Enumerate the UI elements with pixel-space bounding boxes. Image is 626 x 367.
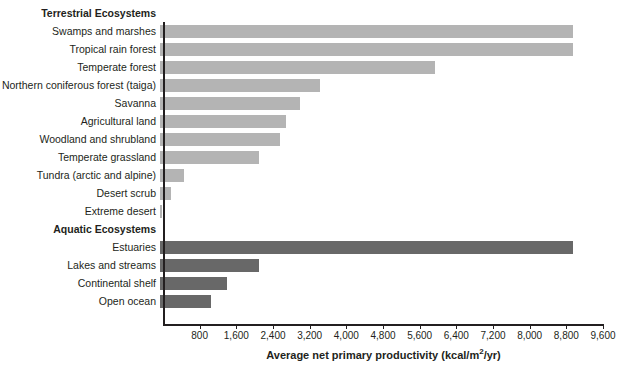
bar-track (160, 112, 626, 130)
x-axis-tick-label: 800 (191, 330, 208, 341)
bar-track (160, 94, 626, 112)
category-label: Agricultural land (0, 115, 160, 127)
x-axis-tick (346, 324, 347, 329)
chart-row: Open ocean (0, 292, 626, 310)
group-header-spacer (160, 220, 626, 238)
chart-row: Continental shelf (0, 274, 626, 292)
x-axis-tick-label: 8,800 (554, 330, 579, 341)
category-label: Open ocean (0, 295, 160, 307)
bar-track (160, 130, 626, 148)
x-axis-title-before: Average net primary productivity (kcal/m (266, 349, 479, 361)
y-axis-line (163, 22, 165, 325)
bar (160, 187, 171, 200)
category-label: Tropical rain forest (0, 43, 160, 55)
bar-track (160, 184, 626, 202)
bar-track (160, 22, 626, 40)
x-axis-tick-label: 4,000 (334, 330, 359, 341)
category-label: Temperate forest (0, 61, 160, 73)
chart-row: Tropical rain forest (0, 40, 626, 58)
chart-row: Savanna (0, 94, 626, 112)
x-axis-tick (493, 324, 494, 329)
x-axis-tick-label: 9,600 (590, 330, 615, 341)
bar (160, 277, 227, 290)
bar-track (160, 76, 626, 94)
bar-track (160, 256, 626, 274)
bar (160, 97, 300, 110)
category-label: Woodland and shrubland (0, 133, 160, 145)
chart-row: Extreme desert (0, 202, 626, 220)
category-label: Lakes and streams (0, 259, 160, 271)
bar-track (160, 58, 626, 76)
group-header-spacer (160, 4, 626, 22)
x-axis-tick (566, 324, 567, 329)
bar (160, 115, 286, 128)
bar-track (160, 40, 626, 58)
bar (160, 295, 211, 308)
bar (160, 25, 573, 38)
category-label: Savanna (0, 97, 160, 109)
category-label: Tundra (arctic and alpine) (0, 169, 160, 181)
bar (160, 61, 435, 74)
category-label: Northern coniferous forest (taiga) (0, 79, 160, 91)
x-axis-tick-label: 4,800 (370, 330, 395, 341)
bar-track (160, 292, 626, 310)
chart-row: Lakes and streams (0, 256, 626, 274)
chart-row: Temperate forest (0, 58, 626, 76)
x-axis-tick (236, 324, 237, 329)
bar-track (160, 238, 626, 256)
x-axis-tick (200, 324, 201, 329)
group-header-row: Aquatic Ecosystems (0, 220, 626, 238)
chart-row: Swamps and marshes (0, 22, 626, 40)
x-axis-tick-label: 1,600 (224, 330, 249, 341)
chart-row: Desert scrub (0, 184, 626, 202)
category-label: Continental shelf (0, 277, 160, 289)
chart-row: Woodland and shrubland (0, 130, 626, 148)
x-axis-tick (603, 324, 604, 329)
bar (160, 133, 280, 146)
x-axis-tick (310, 324, 311, 329)
chart-row: Northern coniferous forest (taiga) (0, 76, 626, 94)
bar (160, 259, 259, 272)
x-axis-tick-label: 2,400 (260, 330, 285, 341)
category-label: Extreme desert (0, 205, 160, 217)
x-axis-tick-label: 5,600 (407, 330, 432, 341)
x-axis-tick-label: 3,200 (297, 330, 322, 341)
bar-track (160, 148, 626, 166)
chart-row: Tundra (arctic and alpine) (0, 166, 626, 184)
x-axis-tick-label: 7,200 (480, 330, 505, 341)
x-axis-tick (456, 324, 457, 329)
x-axis-tick (383, 324, 384, 329)
x-axis-tick-label: 6,400 (444, 330, 469, 341)
x-axis-tick (420, 324, 421, 329)
bar-track (160, 166, 626, 184)
bar (160, 205, 162, 218)
bar (160, 151, 259, 164)
chart-row: Temperate grassland (0, 148, 626, 166)
x-axis-title-after: /yr) (484, 349, 501, 361)
bar-track (160, 202, 626, 220)
chart-row: Agricultural land (0, 112, 626, 130)
group-header-label: Terrestrial Ecosystems (0, 7, 160, 19)
category-label: Temperate grassland (0, 151, 160, 163)
bar-track (160, 274, 626, 292)
category-label: Desert scrub (0, 187, 160, 199)
bar (160, 79, 320, 92)
productivity-bar-chart: Terrestrial EcosystemsSwamps and marshes… (0, 0, 626, 367)
x-axis-tick (273, 324, 274, 329)
x-axis-title: Average net primary productivity (kcal/m… (163, 347, 604, 361)
chart-row: Estuaries (0, 238, 626, 256)
x-axis-tick-label: 8,000 (517, 330, 542, 341)
x-axis-tick (530, 324, 531, 329)
category-label: Swamps and marshes (0, 25, 160, 37)
bar (160, 241, 573, 254)
category-label: Estuaries (0, 241, 160, 253)
bar (160, 43, 573, 56)
group-header-label: Aquatic Ecosystems (0, 223, 160, 235)
group-header-row: Terrestrial Ecosystems (0, 4, 626, 22)
